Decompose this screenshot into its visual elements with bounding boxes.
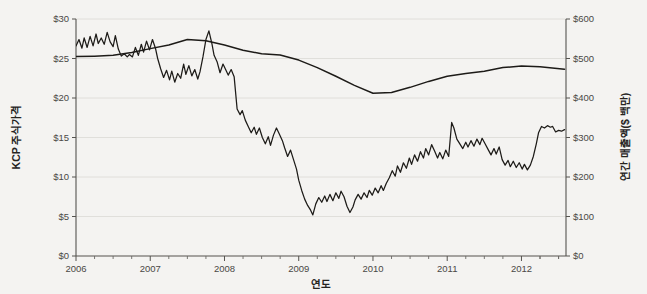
x-axis-tick-label: 2007 — [140, 263, 161, 274]
y-axis-left-tick-label: $0 — [58, 250, 69, 261]
y-axis-left-tick-label: $10 — [53, 171, 69, 182]
y-axis-right-tick-label: $500 — [573, 53, 594, 64]
y-axis-right-tick-label: $100 — [573, 211, 594, 222]
y-axis-right-tick-label: $400 — [573, 92, 594, 103]
y-axis-left-tick-label: $25 — [53, 53, 69, 64]
x-axis-title: 연도 — [311, 278, 331, 290]
x-axis-tick-label: 2008 — [214, 263, 235, 274]
y-axis-right-tick-label: $300 — [573, 132, 594, 143]
stock-revenue-chart: $0$5$10$15$20$25$30 $0$100$200$300$400$5… — [0, 0, 647, 294]
y-axis-right-tick-label: $0 — [573, 250, 584, 261]
y-axis-right-title: 연간 매출액($ 백만) — [619, 93, 631, 182]
x-axis-tick-label: 2009 — [288, 263, 309, 274]
x-axis-tick-label: 2010 — [362, 263, 383, 274]
chart-canvas: $0$5$10$15$20$25$30 $0$100$200$300$400$5… — [0, 0, 647, 294]
chart-background — [0, 0, 647, 294]
y-axis-right-tick-label: $600 — [573, 13, 594, 24]
y-axis-left-tick-label: $30 — [53, 13, 69, 24]
x-axis-tick-label: 2006 — [65, 263, 86, 274]
y-axis-left-tick-label: $20 — [53, 92, 69, 103]
x-axis-tick-label: 2011 — [437, 263, 457, 274]
y-axis-right-tick-label: $200 — [573, 171, 594, 182]
y-axis-left-title: KCP 주식가격 — [10, 105, 22, 170]
y-axis-left-tick-label: $15 — [53, 132, 69, 143]
y-axis-left-tick-label: $5 — [58, 211, 69, 222]
x-axis-tick-label: 2012 — [511, 263, 532, 274]
